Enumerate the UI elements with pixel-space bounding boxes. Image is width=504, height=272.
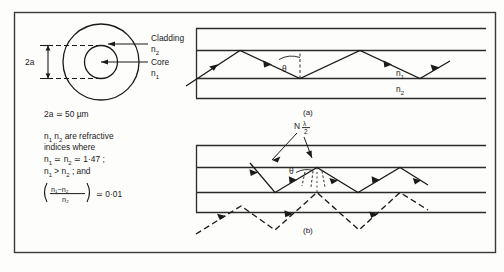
cross-section-diagram: 2a Cladding n2 Core n1 [25, 24, 184, 100]
note-line-index-values: n1 ≃ n2 ≃ 1·47 ; [44, 154, 105, 166]
panel-a-ray-path [186, 51, 450, 87]
dimension-arrowhead-up [46, 46, 51, 51]
panel-b-wavefront-denom: 2 [304, 128, 308, 135]
formula-numerator: n₁−n₂ [51, 185, 69, 194]
cladding-index-label: n2 [151, 44, 160, 56]
panel-b-wavefront-label: N λ 2 [272, 120, 312, 163]
core-index-label: n1 [151, 68, 160, 80]
panel-b-caption: (b) [303, 226, 313, 235]
notes-block: 2a ≃ 50 µm n1 n2 are refractive indices … [44, 109, 122, 204]
panel-b-wavefront-lambda: λ [303, 120, 307, 127]
formula-relation: ≃ 0·01 [96, 189, 122, 199]
panel-a-arrow-3 [384, 61, 393, 68]
panel-b-leader-left [272, 133, 297, 160]
dimension-label-2a: 2a [25, 57, 35, 67]
note-line-diameter: 2a ≃ 50 µm [44, 109, 88, 119]
optical-fibre-figure: 2a Cladding n2 Core n1 2a ≃ 50 µm n1 n2 … [0, 0, 504, 272]
formula-denominator: n₂ [62, 195, 69, 204]
panel-b-wavefront-tick-1 [302, 172, 305, 186]
panel-b-theta-label: θ [289, 166, 294, 176]
dimension-arrowhead-down [46, 74, 51, 79]
panel-a-theta-label: θ [282, 64, 287, 74]
panel-b-leader-right-arrowhead [306, 150, 312, 158]
formula-paren-right [87, 183, 90, 202]
cladding-leader-arrowhead [108, 42, 115, 47]
panel-b-wavefront-tick-3 [322, 171, 325, 187]
panel-a-caption: (a) [303, 108, 313, 117]
panel-b-dashed-arrow-2 [284, 210, 293, 217]
cladding-label: Cladding [151, 33, 184, 43]
figure-page: 2a Cladding n2 Core n1 2a ≃ 50 µm n1 n2 … [0, 0, 504, 272]
panel-b-wavefront-N: N [294, 121, 300, 131]
panel-a-index-n1: n1 [396, 68, 405, 80]
note-line-inequality: n1 > n2 ; and [44, 166, 91, 178]
panel-a-angle-arc [279, 56, 300, 59]
panel-a-arrow-2 [263, 60, 272, 67]
note-line-indices-where: indices where [44, 142, 96, 152]
panel-a-diagram: θ n1 n2 (a) [186, 28, 486, 117]
panel-b-arrow-5 [413, 178, 421, 184]
panel-b-diagram: θ N λ 2 (b) [196, 120, 486, 235]
delta-index-formula: n₁−n₂ n₂ ≃ 0·01 [45, 183, 123, 204]
panel-a-index-n2: n2 [396, 84, 405, 96]
core-leader-arrowhead [101, 60, 108, 65]
core-label: Core [151, 57, 169, 67]
note-line-refractive: n1 n2 are refractive [44, 131, 114, 143]
formula-paren-left [45, 183, 48, 202]
panel-b-leader-left-arrowhead [272, 157, 280, 163]
panel-b-wavefront-tick-2 [311, 171, 313, 187]
